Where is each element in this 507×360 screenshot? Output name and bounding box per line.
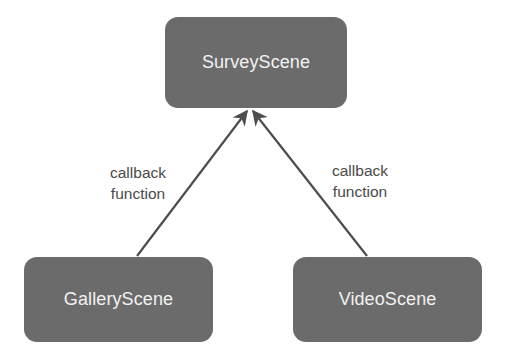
survey-scene-label: SurveyScene xyxy=(202,52,310,73)
edge-label-video-callback: callback function xyxy=(320,160,400,202)
gallery-scene-node: GalleryScene xyxy=(24,257,213,342)
video-scene-node: VideoScene xyxy=(293,257,482,342)
video-scene-label: VideoScene xyxy=(339,289,437,310)
edge-label-line2: function xyxy=(320,181,400,202)
survey-scene-node: SurveyScene xyxy=(165,17,347,108)
edge-label-line1: callback xyxy=(98,162,178,183)
edge-label-line1: callback xyxy=(320,160,400,181)
edge-label-line2: function xyxy=(98,183,178,204)
edge-label-gallery-callback: callback function xyxy=(98,162,178,204)
gallery-scene-label: GalleryScene xyxy=(64,289,173,310)
